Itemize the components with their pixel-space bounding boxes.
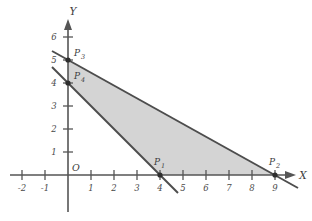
point-label-p4-base: P: [73, 71, 81, 81]
point-label-p1-base: P: [153, 157, 161, 167]
point-marker-p2: [272, 172, 277, 177]
point-label-p3-base: P: [73, 48, 81, 58]
y-tick-label-6: 6: [51, 32, 57, 42]
point-marker-p3: [65, 57, 70, 62]
y-tick-label-3: 3: [51, 101, 56, 111]
x-tick-label-7: 7: [226, 183, 232, 193]
y-axis-label: Y: [70, 5, 78, 17]
x-tick-label-1: 1: [88, 183, 93, 193]
x-tick-label-3: 3: [134, 183, 139, 193]
x-tick-label-2: 2: [110, 183, 116, 193]
y-tick-label-4: 4: [50, 78, 56, 88]
point-label-p3: P 3: [73, 48, 85, 61]
x-tick-label-4: 4: [156, 183, 162, 193]
x-tick-label-9: 9: [272, 183, 278, 193]
point-label-p2: P 2: [268, 157, 280, 170]
x-tick-label-5: 5: [180, 183, 185, 193]
x-tick-label--1: -1: [41, 183, 49, 193]
point-marker-p1: [157, 172, 162, 177]
y-tick-label-2: 2: [50, 124, 56, 134]
point-label-p1-sub: 1: [161, 162, 165, 170]
x-tick-label-8: 8: [249, 183, 255, 193]
coordinate-plane-figure: -2 -1 1 2 3 4 5 6 7 8 9 1 2 3 4 5 6 X Y …: [0, 0, 312, 221]
graph-svg: -2 -1 1 2 3 4 5 6 7 8 9 1 2 3 4 5 6 X Y …: [0, 0, 312, 221]
point-label-p3-sub: 3: [81, 53, 85, 61]
y-tick-label-5: 5: [51, 55, 56, 65]
point-label-p2-sub: 2: [275, 162, 280, 170]
point-label-p4-sub: 4: [80, 76, 85, 84]
x-tick-label-6: 6: [203, 183, 209, 193]
point-marker-p4: [65, 80, 70, 85]
point-label-p2-base: P: [268, 157, 276, 167]
origin-label: O: [72, 162, 80, 173]
x-axis-label: X: [298, 169, 307, 181]
x-tick-label--2: -2: [18, 183, 26, 193]
y-tick-label-1: 1: [51, 147, 56, 157]
y-axis: [64, 19, 72, 212]
